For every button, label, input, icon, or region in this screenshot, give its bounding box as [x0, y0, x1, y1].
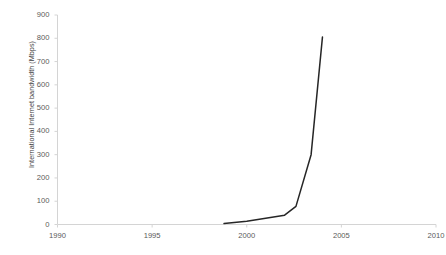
x-axis-tick-label: 2000 — [227, 232, 267, 240]
y-axis-tick-label: 600 — [24, 81, 50, 89]
x-axis-tick-label: 2010 — [416, 232, 446, 240]
x-axis-tick-label: 1990 — [38, 232, 78, 240]
chart-plot-area — [0, 0, 446, 255]
data-series-line — [224, 37, 322, 223]
y-axis-tick-label: 0 — [24, 221, 50, 229]
y-axis-tick-label: 100 — [24, 197, 50, 205]
y-axis-tick-label: 800 — [24, 34, 50, 42]
y-axis-tick-label: 400 — [24, 127, 50, 135]
y-axis — [55, 15, 58, 225]
x-axis-tick-label: 1995 — [132, 232, 172, 240]
x-axis — [58, 225, 437, 228]
chart-container: International Internet bandwidth (Mbps) … — [0, 0, 446, 255]
y-axis-tick-label: 500 — [24, 104, 50, 112]
y-axis-tick-label: 200 — [24, 174, 50, 182]
y-axis-tick-label: 900 — [24, 11, 50, 19]
x-axis-tick-label: 2005 — [321, 232, 361, 240]
y-axis-tick-label: 700 — [24, 58, 50, 66]
y-axis-tick-label: 300 — [24, 151, 50, 159]
